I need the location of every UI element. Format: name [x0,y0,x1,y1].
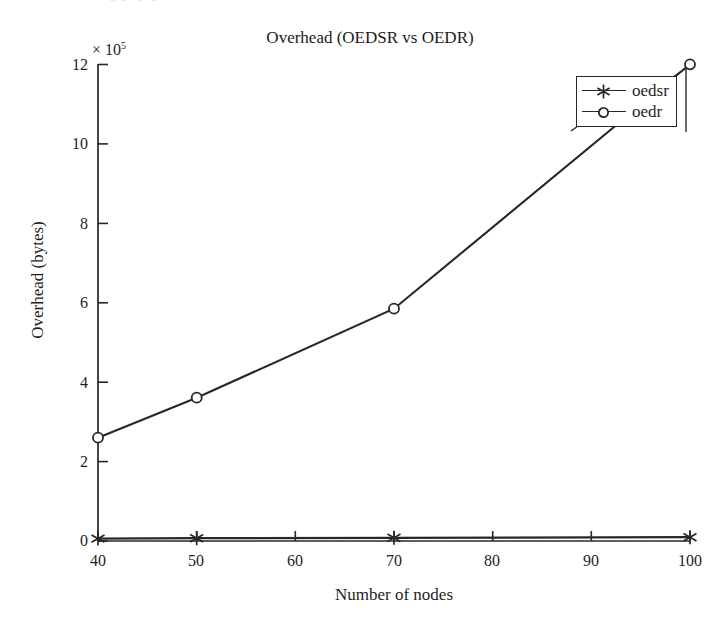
x-tick-label: 70 [372,553,416,569]
star-marker-glyph [596,84,611,99]
chart-figure: Overhead (OEDSR vs OEDR) × 105 Overhead … [0,0,726,625]
x-tick-label: 60 [273,553,317,569]
y-axis-ticks [98,65,108,542]
x-tick-label: 90 [569,553,613,569]
x-tick-label: 80 [470,553,514,569]
y-tick-label: 0 [48,533,88,549]
x-tick-label: 100 [668,553,712,569]
circle-marker-icon [582,103,626,121]
chart-legend: oedsr oedr [576,76,677,127]
data-point-oedr [93,433,103,443]
y-tick-label: 6 [48,295,88,311]
data-point-oedr [685,59,695,69]
y-tick-label: 4 [48,375,88,391]
legend-label-oedr: oedr [626,103,662,121]
series-oedsr [92,530,697,545]
y-tick-label: 8 [48,216,88,232]
star-marker-icon [582,82,626,100]
x-tick-label: 50 [174,553,218,569]
data-point-oedr [389,304,399,314]
legend-label-oedsr: oedsr [626,82,669,100]
legend-entry-oedr: oedr [582,101,669,122]
x-tick-label: 40 [76,553,120,569]
y-tick-label: 10 [48,136,88,152]
y-tick-label: 2 [48,454,88,470]
y-tick-label: 12 [48,57,88,73]
data-point-oedr [192,393,202,403]
circle-marker-glyph [596,105,611,120]
legend-entry-oedsr: oedsr [582,80,669,101]
